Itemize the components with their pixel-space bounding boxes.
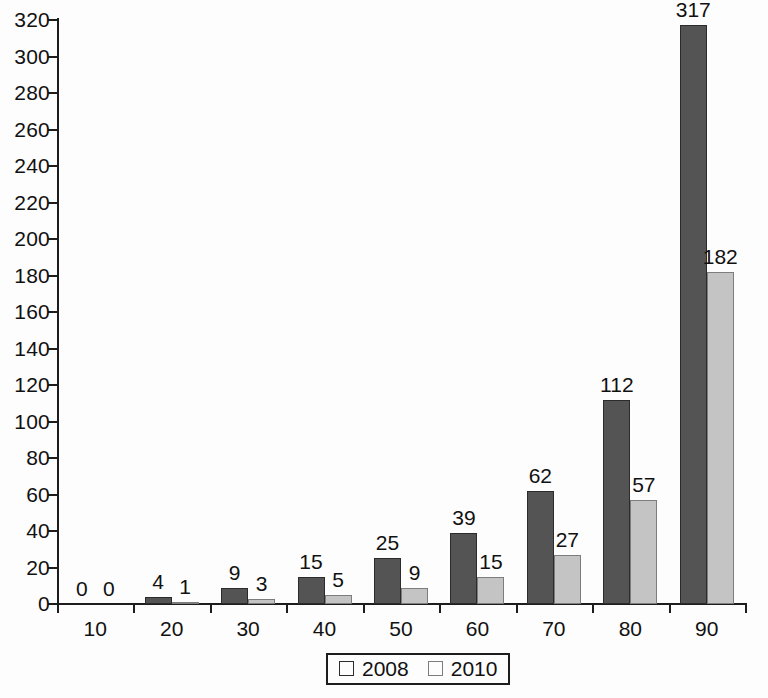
x-axis-tick bbox=[57, 603, 59, 613]
bar-2008-30 bbox=[221, 588, 248, 604]
x-axis-tick bbox=[363, 603, 365, 613]
x-axis-tick bbox=[286, 603, 288, 613]
bar-group: 00 bbox=[57, 20, 133, 604]
bar-2008-60 bbox=[450, 533, 477, 604]
bar-group: 155 bbox=[286, 20, 362, 604]
y-axis-tick-label: 40 bbox=[26, 519, 50, 543]
bar-value-label: 9 bbox=[409, 561, 421, 585]
bar-value-label: 57 bbox=[632, 473, 655, 497]
bar-value-label: 3 bbox=[256, 572, 268, 596]
bar-2010-60 bbox=[477, 577, 504, 604]
x-axis-tick-label: 60 bbox=[466, 617, 489, 641]
y-axis-tick-label: 140 bbox=[14, 337, 50, 361]
bar-value-label: 317 bbox=[676, 0, 711, 22]
y-axis-tick-label: 160 bbox=[14, 300, 50, 324]
legend-swatch-2010 bbox=[428, 661, 443, 676]
x-axis-tick-label: 90 bbox=[695, 617, 718, 641]
y-axis-tick-label: 260 bbox=[14, 118, 50, 142]
bar-value-label: 15 bbox=[299, 550, 322, 574]
x-axis-tick bbox=[439, 603, 441, 613]
y-axis-tick-label: 0 bbox=[38, 592, 50, 616]
bar-2008-70 bbox=[527, 491, 554, 604]
bar-value-label: 0 bbox=[76, 577, 88, 601]
legend-swatch-2008 bbox=[339, 661, 354, 676]
x-axis-tick-label: 70 bbox=[542, 617, 565, 641]
bar-2008-80 bbox=[603, 400, 630, 604]
y-axis-tick-label: 60 bbox=[26, 483, 50, 507]
x-axis-tick-label: 10 bbox=[84, 617, 107, 641]
bar-2010-40 bbox=[325, 595, 352, 604]
x-axis-tick-label: 40 bbox=[313, 617, 336, 641]
bar-value-label: 39 bbox=[452, 506, 475, 530]
x-axis-tick bbox=[669, 603, 671, 613]
bar-value-label: 4 bbox=[152, 570, 164, 594]
bar-group: 93 bbox=[210, 20, 286, 604]
plot-area: 0204060801001201401601802002202402602803… bbox=[57, 20, 745, 604]
bar-value-label: 0 bbox=[103, 577, 115, 601]
bar-2010-30 bbox=[248, 599, 275, 604]
x-axis-tick bbox=[516, 603, 518, 613]
bar-group: 41 bbox=[133, 20, 209, 604]
bar-group: 317182 bbox=[669, 20, 745, 604]
y-axis-tick-label: 180 bbox=[14, 264, 50, 288]
y-axis-tick-label: 320 bbox=[14, 8, 50, 32]
bar-value-label: 1 bbox=[179, 575, 191, 599]
legend-label-2008: 2008 bbox=[362, 658, 409, 679]
bar-2008-90 bbox=[680, 25, 707, 604]
bar-2010-80 bbox=[630, 500, 657, 604]
bar-value-label: 25 bbox=[376, 531, 399, 555]
bar-value-label: 27 bbox=[556, 528, 579, 552]
bar-2010-90 bbox=[707, 272, 734, 604]
bar-2010-70 bbox=[554, 555, 581, 604]
legend-label-2010: 2010 bbox=[451, 658, 498, 679]
y-axis-tick-label: 100 bbox=[14, 410, 50, 434]
y-axis-tick-label: 200 bbox=[14, 227, 50, 251]
bar-chart: 0204060801001201401601802002202402602803… bbox=[0, 0, 768, 698]
bar-group: 3915 bbox=[439, 20, 515, 604]
bar-group: 259 bbox=[363, 20, 439, 604]
bar-value-label: 112 bbox=[600, 373, 633, 397]
bar-group: 6227 bbox=[516, 20, 592, 604]
x-axis-tick bbox=[133, 603, 135, 613]
legend-item-2008: 2008 bbox=[339, 658, 409, 679]
legend-item-2010: 2010 bbox=[428, 658, 498, 679]
bar-group: 11257 bbox=[592, 20, 668, 604]
x-axis-tick bbox=[210, 603, 212, 613]
bar-value-label: 182 bbox=[703, 245, 738, 269]
x-axis-tick bbox=[745, 603, 747, 613]
bar-2010-20 bbox=[172, 602, 199, 604]
y-axis-tick-label: 240 bbox=[14, 154, 50, 178]
bar-value-label: 5 bbox=[332, 568, 344, 592]
y-axis-tick-label: 20 bbox=[26, 556, 50, 580]
bar-2008-20 bbox=[145, 597, 172, 604]
bar-2010-50 bbox=[401, 588, 428, 604]
y-axis-tick-label: 300 bbox=[14, 45, 50, 69]
bar-value-label: 62 bbox=[529, 464, 552, 488]
x-axis-tick-label: 80 bbox=[619, 617, 642, 641]
bar-2008-50 bbox=[374, 558, 401, 604]
chart-legend: 2008 2010 bbox=[326, 653, 510, 685]
y-axis-tick-label: 120 bbox=[14, 373, 50, 397]
y-axis-tick-label: 280 bbox=[14, 81, 50, 105]
bar-value-label: 9 bbox=[229, 561, 241, 585]
bar-2008-40 bbox=[298, 577, 325, 604]
y-axis-tick-label: 80 bbox=[26, 446, 50, 470]
x-axis-tick bbox=[592, 603, 594, 613]
x-axis-tick-label: 50 bbox=[389, 617, 412, 641]
bar-value-label: 15 bbox=[479, 550, 502, 574]
x-axis-tick-label: 30 bbox=[236, 617, 259, 641]
x-axis-tick-label: 20 bbox=[160, 617, 183, 641]
y-axis-tick-label: 220 bbox=[14, 191, 50, 215]
